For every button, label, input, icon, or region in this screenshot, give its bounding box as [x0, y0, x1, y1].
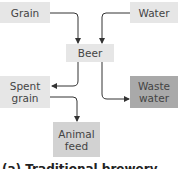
node-beer-label: Beer: [78, 47, 102, 59]
arrow-spent-feed: [50, 97, 77, 121]
node-water: Water: [130, 2, 178, 23]
node-animal-feed-label: Animal feed: [58, 128, 94, 152]
node-spent-grain-label: Spent grain: [10, 80, 41, 104]
arrow-beer-spent: [52, 62, 78, 86]
node-spent-grain: Spent grain: [0, 76, 50, 108]
node-waste-water: Waste water: [130, 76, 178, 108]
arrow-water-beer: [102, 13, 130, 43]
arrow-grain-beer: [50, 13, 78, 43]
node-beer: Beer: [66, 44, 114, 62]
node-waste-water-label: Waste water: [138, 80, 170, 104]
node-grain: Grain: [0, 2, 50, 23]
node-water-label: Water: [138, 7, 169, 19]
node-animal-feed: Animal feed: [53, 122, 100, 157]
node-grain-label: Grain: [11, 7, 39, 19]
figure-caption: (a) Traditional brewery: [2, 162, 157, 169]
arrow-beer-waste: [102, 62, 129, 99]
